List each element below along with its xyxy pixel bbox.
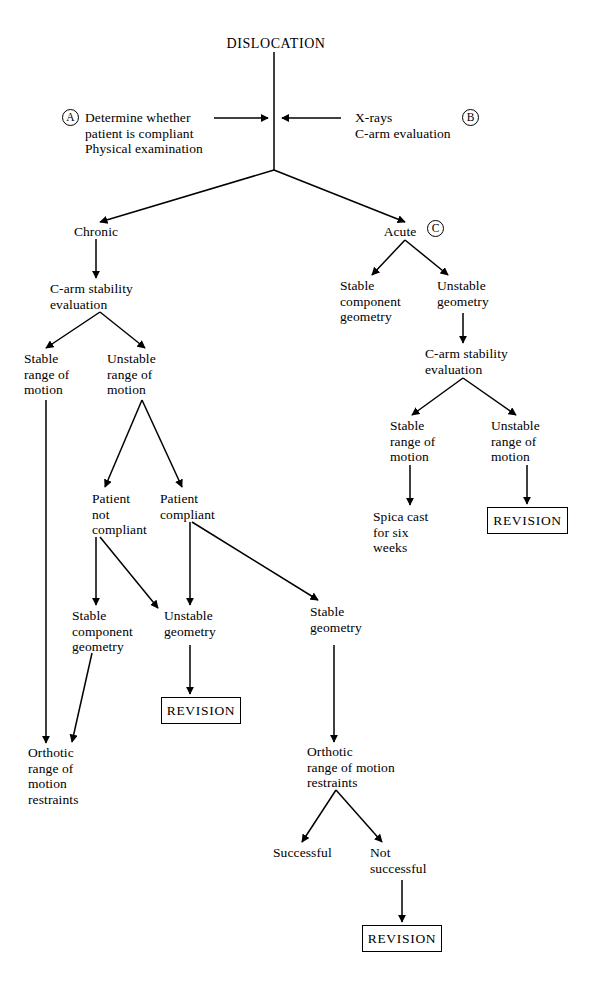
edge-acute-to-unstable-geom [405,240,448,275]
flowchart-canvas: DISLOCATION A B C Determine whether pati… [0,0,607,987]
node-orthotic-restraints-center: Orthotic range of motion restraints [307,744,395,791]
node-revision-left: REVISION [161,697,241,724]
edge-orthotic-to-not-successful [336,790,382,842]
node-acute-stable-component-geometry: Stable component geometry [340,278,401,325]
node-acute-unstable-range-of-motion: Unstable range of motion [491,418,540,465]
edge-root-to-acute [274,170,405,222]
node-chronic-stable-geometry: Stable geometry [310,604,362,635]
edge-acute-carm-to-stable-rom [412,378,463,415]
node-chronic-unstable-range-of-motion: Unstable range of motion [107,351,156,398]
edge-root-to-chronic [100,170,274,222]
edge-unstable-rom-to-compliant [142,400,182,487]
node-orthotic-restraints-left: Orthotic range of motion restraints [28,745,79,807]
node-acute: Acute [384,224,417,240]
node-xrays-carm-evaluation: X-rays C-arm evaluation [355,110,451,141]
node-chronic-stable-component-geometry: Stable component geometry [72,608,133,655]
node-patient-not-compliant: Patient not compliant [92,491,147,538]
node-determine-compliance: Determine whether patient is compliant P… [85,110,203,157]
node-revision-bottom: REVISION [362,925,442,952]
edge-orthotic-to-successful [302,790,336,842]
node-not-successful: Not successful [370,845,426,876]
node-chronic-carm-evaluation: C-arm stability evaluation [50,281,133,312]
node-chronic-stable-range-of-motion: Stable range of motion [24,351,69,398]
edge-unstable-rom-to-not-compliant [105,400,142,487]
edge-stable-geom-to-orthotic [72,653,92,742]
edge-carm-to-stable-rom [46,312,100,348]
marker-a-icon: A [62,109,79,126]
marker-b-icon: B [462,109,479,126]
node-chronic: Chronic [74,224,118,240]
node-acute-carm-evaluation: C-arm stability evaluation [425,346,508,377]
marker-c-icon: C [427,220,444,237]
edge-acute-to-stable-geom [372,240,405,275]
node-acute-unstable-geometry: Unstable geometry [437,278,489,309]
node-successful: Successful [273,845,332,861]
edge-acute-carm-to-unstable-rom [463,378,516,415]
edge-carm-to-unstable-rom [100,312,145,348]
edge-not-compliant-to-unstable-geom [100,537,158,608]
node-chronic-unstable-geometry: Unstable geometry [164,608,216,639]
node-dislocation-title: DISLOCATION [226,36,325,52]
node-patient-compliant: Patient compliant [160,491,215,522]
node-spica-cast: Spica cast for six weeks [373,509,428,556]
node-revision-right: REVISION [487,507,568,534]
edge-compliant-to-stable-geom [192,522,318,600]
node-acute-stable-range-of-motion: Stable range of motion [390,418,435,465]
